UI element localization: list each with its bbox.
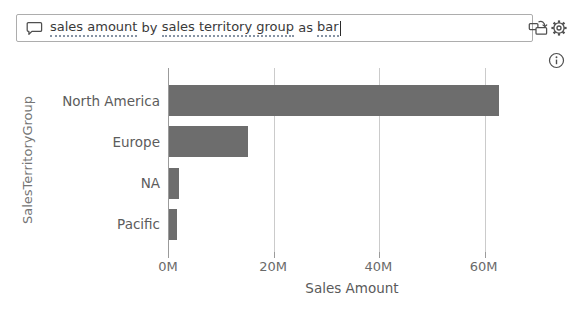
bar-europe[interactable] <box>169 126 248 157</box>
powerbi-qa-screen: sales amount by sales territory group as… <box>0 0 579 310</box>
plot-area <box>168 68 521 252</box>
x-tick-mark <box>168 252 169 258</box>
qa-question-input[interactable]: sales amount by sales territory group as… <box>16 14 533 42</box>
y-axis-title: SalesTerritoryGroup <box>20 96 35 224</box>
comment-bubble-icon <box>26 21 43 36</box>
x-tick-mark <box>379 252 380 258</box>
text-cursor <box>340 21 342 36</box>
bar-north-america[interactable] <box>169 85 499 116</box>
recognized-term: bar <box>317 19 339 37</box>
x-tick-mark <box>274 252 275 258</box>
info-icon[interactable] <box>548 52 565 69</box>
query-word: by <box>137 20 161 36</box>
x-axis-title: Sales Amount <box>168 280 536 296</box>
qa-query-text: sales amount by sales territory group as… <box>50 19 339 37</box>
x-tick-label: 60M <box>462 259 506 274</box>
x-tick-label: 40M <box>356 259 400 274</box>
category-label: Europe <box>0 133 160 151</box>
category-label: NA <box>0 174 160 192</box>
x-tick-mark <box>485 252 486 258</box>
bar-pacific[interactable] <box>169 209 177 240</box>
category-label: Pacific <box>0 215 160 233</box>
recognized-term: sales amount <box>50 19 137 37</box>
settings-gear-icon[interactable] <box>550 19 568 37</box>
bar-na[interactable] <box>169 168 179 199</box>
convert-to-standard-visual-icon[interactable] <box>528 19 548 37</box>
query-word: as <box>294 20 317 36</box>
x-tick-label: 0M <box>146 259 190 274</box>
recognized-term: sales territory group <box>162 19 294 37</box>
category-label: North America <box>0 92 160 110</box>
x-tick-label: 20M <box>251 259 295 274</box>
